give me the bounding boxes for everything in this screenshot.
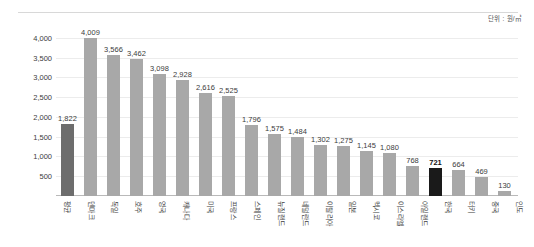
bar-value-label: 768 xyxy=(406,156,419,165)
x-axis-tick-label: 독일 xyxy=(110,201,120,214)
y-axis-tick-label: 3,500 xyxy=(33,53,52,62)
bar[interactable] xyxy=(153,74,167,196)
x-axis-slot: 호주 xyxy=(127,199,151,245)
bar[interactable] xyxy=(383,153,397,196)
x-axis-slot: 독일 xyxy=(104,199,128,245)
bar-value-label: 469 xyxy=(475,167,488,176)
x-axis-tick-label: 네덜란드 xyxy=(301,201,311,226)
bar[interactable] xyxy=(245,125,259,196)
bar[interactable] xyxy=(429,168,443,197)
plot-frame: 4,0003,5003,0002,5002,0001,5001,000500 1… xyxy=(18,12,518,198)
bar-value-label: 2,616 xyxy=(196,83,215,92)
bar-slot[interactable]: 664 xyxy=(447,26,470,196)
bar-slot[interactable]: 1,822 xyxy=(56,26,79,196)
x-axis-slot: 인도 xyxy=(508,199,532,245)
bar-slot[interactable]: 1,302 xyxy=(309,26,332,196)
bar-slot[interactable]: 721 xyxy=(424,26,447,196)
bar-slot[interactable]: 1,145 xyxy=(355,26,378,196)
x-axis-slot: 멕시코 xyxy=(365,199,389,245)
bar-slot[interactable]: 1,796 xyxy=(240,26,263,196)
y-axis-tick-label: 2,500 xyxy=(33,93,52,102)
y-axis-tick-label: 1,000 xyxy=(33,152,52,161)
x-axis-tick-label: 영국 xyxy=(158,201,168,214)
bar-value-label: 2,525 xyxy=(219,86,238,95)
bar-value-label: 1,822 xyxy=(58,114,77,123)
x-axis-slot: 터키 xyxy=(461,199,485,245)
y-axis-tick-label: 4,000 xyxy=(33,33,52,42)
bar-slot[interactable]: 3,462 xyxy=(125,26,148,196)
x-axis-labels: 평균덴마크독일호주영국캐나다미국프랑스스페인뉴질랜드네덜란드이탈리아일본멕시코이… xyxy=(56,199,532,245)
bar[interactable] xyxy=(84,38,98,196)
bar-slot[interactable]: 2,616 xyxy=(194,26,217,196)
bar-value-label: 3,566 xyxy=(104,45,123,54)
bar-slot[interactable]: 2,525 xyxy=(217,26,240,196)
bar-value-label: 1,145 xyxy=(357,141,376,150)
bar-slot[interactable]: 1,484 xyxy=(286,26,309,196)
y-axis: 4,0003,5003,0002,5002,0001,5001,000500 xyxy=(18,26,54,196)
x-axis-tick-label: 한국 xyxy=(444,201,454,214)
bar[interactable] xyxy=(314,145,328,196)
x-axis-tick-label: 평균 xyxy=(63,201,73,214)
bar-value-label: 3,462 xyxy=(127,49,146,58)
bar-slot[interactable]: 1,080 xyxy=(378,26,401,196)
x-axis-tick-label: 덴마크 xyxy=(87,201,97,220)
chart-page: 단위 : 원/㎥ 4,0003,5003,0002,5002,0001,5001… xyxy=(0,0,534,247)
bar[interactable] xyxy=(107,55,121,196)
x-axis-tick-label: 스페인 xyxy=(253,201,263,220)
x-axis-tick-label: 멕시코 xyxy=(372,201,382,220)
bar-slot[interactable]: 1,575 xyxy=(263,26,286,196)
bar-value-label: 1,796 xyxy=(242,115,261,124)
x-axis-slot: 영국 xyxy=(151,199,175,245)
bar-slot[interactable]: 469 xyxy=(470,26,493,196)
bar-value-label: 1,275 xyxy=(334,136,353,145)
bar[interactable] xyxy=(452,170,466,196)
bar-slot[interactable]: 130 xyxy=(493,26,516,196)
bar[interactable] xyxy=(222,96,236,196)
x-axis-slot: 평균 xyxy=(56,199,80,245)
y-axis-tick-label: 2,000 xyxy=(33,112,52,121)
x-axis-tick-label: 이탈리아 xyxy=(325,201,335,226)
x-axis-tick-label: 캐나다 xyxy=(182,201,192,220)
bar[interactable] xyxy=(291,137,305,196)
bar-value-label: 721 xyxy=(429,158,442,167)
y-axis-tick-label: 3,000 xyxy=(33,73,52,82)
bar[interactable] xyxy=(475,177,489,196)
bar-slot[interactable]: 4,009 xyxy=(79,26,102,196)
x-axis-tick-label: 프랑스 xyxy=(229,201,239,220)
bar[interactable] xyxy=(498,191,512,196)
x-axis-slot: 캐나다 xyxy=(175,199,199,245)
y-axis-tick-label: 1,500 xyxy=(33,132,52,141)
x-axis-slot: 네덜란드 xyxy=(294,199,318,245)
x-axis-tick-label: 미국 xyxy=(206,201,216,214)
frame-top-rule xyxy=(18,12,518,13)
bar-slot[interactable]: 2,928 xyxy=(171,26,194,196)
bar-value-label: 4,009 xyxy=(81,28,100,37)
x-axis-tick-label: 터키 xyxy=(467,201,477,214)
bar-series: 1,8224,0093,5663,4623,0982,9282,6162,525… xyxy=(56,26,516,196)
bar-value-label: 130 xyxy=(498,181,511,190)
bar-value-label: 1,080 xyxy=(380,143,399,152)
bar[interactable] xyxy=(199,93,213,196)
x-axis-slot: 프랑스 xyxy=(223,199,247,245)
bar[interactable] xyxy=(61,124,75,196)
x-axis-slot: 미국 xyxy=(199,199,223,245)
x-axis-slot: 이탈리아 xyxy=(318,199,342,245)
y-axis-tick-label: 500 xyxy=(39,172,52,181)
x-axis-tick-label: 인도 xyxy=(515,201,525,214)
bar-slot[interactable]: 768 xyxy=(401,26,424,196)
x-axis-slot: 아일랜드 xyxy=(413,199,437,245)
bar[interactable] xyxy=(130,59,144,196)
bar[interactable] xyxy=(406,166,420,196)
bar-slot[interactable]: 3,566 xyxy=(102,26,125,196)
bar-slot[interactable]: 1,275 xyxy=(332,26,355,196)
bar-value-label: 664 xyxy=(452,160,465,169)
x-axis-slot: 이스라엘 xyxy=(389,199,413,245)
bar[interactable] xyxy=(360,151,374,196)
x-axis-slot: 일본 xyxy=(342,199,366,245)
bar[interactable] xyxy=(268,134,282,196)
x-axis-tick-label: 뉴질랜드 xyxy=(277,201,287,226)
x-axis-tick-label: 아일랜드 xyxy=(420,201,430,226)
bar-slot[interactable]: 3,098 xyxy=(148,26,171,196)
bar[interactable] xyxy=(337,146,351,196)
bar[interactable] xyxy=(176,80,190,196)
